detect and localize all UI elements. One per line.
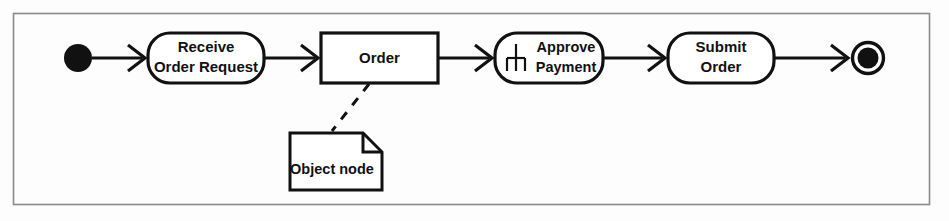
object-node-note-label: Object node xyxy=(290,161,374,177)
edge-initial-to-receive xyxy=(92,45,145,71)
final-node xyxy=(853,43,884,74)
approve-payment-node[interactable]: Approve Payment xyxy=(495,33,603,83)
approve-payment-label-line2: Payment xyxy=(536,59,597,75)
initial-node xyxy=(64,44,92,72)
submit-order-node[interactable]: Submit Order xyxy=(668,33,774,83)
edge-receive-to-order xyxy=(264,45,318,71)
diagram-canvas: Receive Order Request Order Approve Paym… xyxy=(0,0,949,221)
submit-order-label-line1: Submit xyxy=(696,38,747,55)
receive-order-request-node[interactable]: Receive Order Request xyxy=(148,33,264,83)
submit-order-label-line2: Order xyxy=(701,58,742,75)
edge-submit-to-final xyxy=(774,45,848,71)
order-label: Order xyxy=(359,49,400,66)
edge-order-to-note xyxy=(332,84,369,131)
approve-payment-label-line1: Approve xyxy=(537,39,596,55)
receive-order-request-label-line1: Receive xyxy=(178,38,235,55)
edge-approve-to-submit xyxy=(603,45,665,71)
order-object-node[interactable]: Order xyxy=(321,33,438,83)
edge-order-to-approve xyxy=(438,45,492,71)
activity-diagram: Receive Order Request Order Approve Paym… xyxy=(0,0,949,221)
object-node-note[interactable]: Object node xyxy=(290,133,382,190)
receive-order-request-label-line2: Order Request xyxy=(154,58,258,75)
